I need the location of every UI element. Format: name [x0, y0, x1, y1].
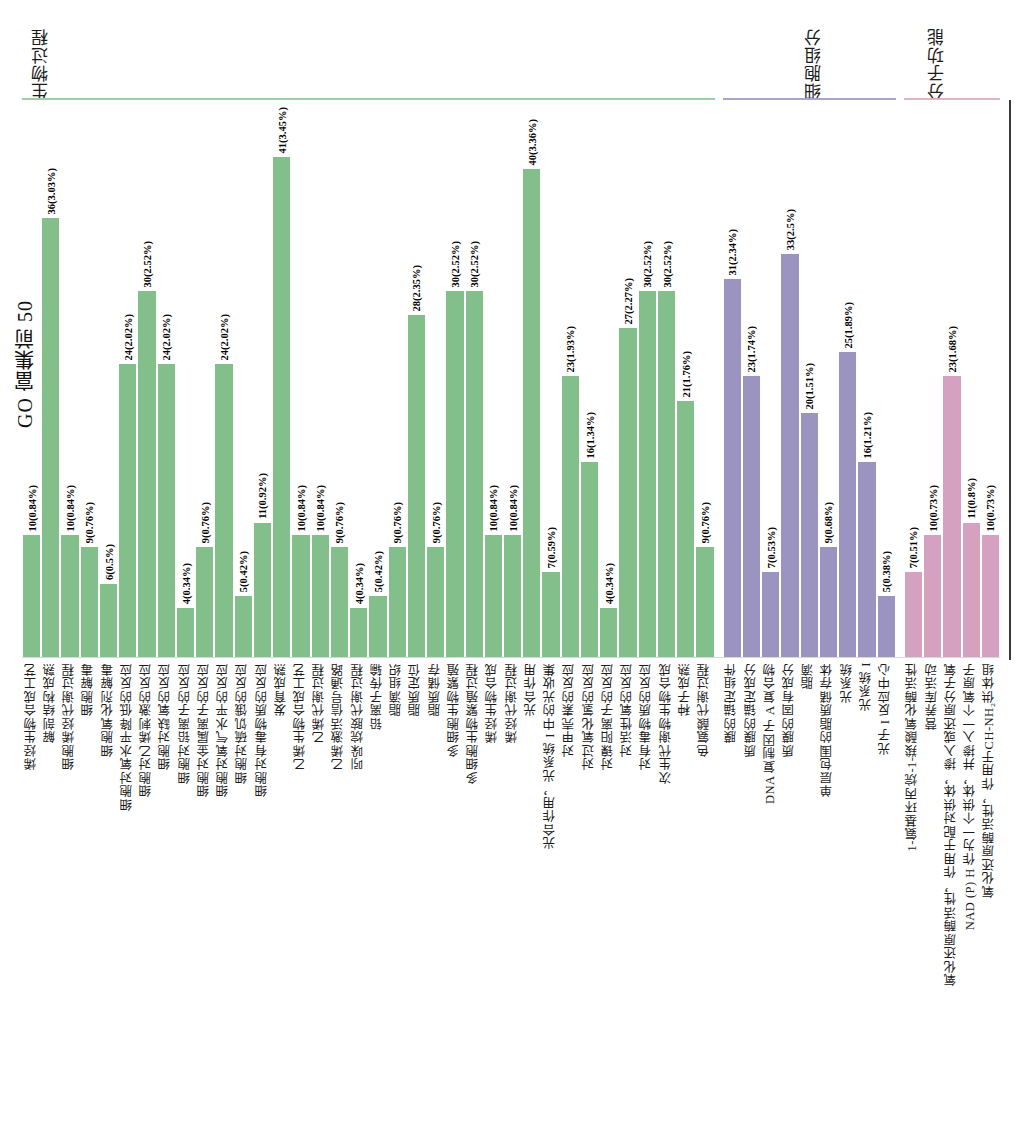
bar[interactable]: [465, 291, 484, 657]
bar-column[interactable]: 4(0.34%): [176, 108, 195, 657]
bar[interactable]: [657, 291, 676, 657]
bar[interactable]: [838, 352, 857, 657]
bar[interactable]: [426, 547, 445, 657]
bar-column[interactable]: 27(2.27%): [618, 108, 637, 657]
bar[interactable]: [819, 547, 838, 657]
bar[interactable]: [22, 535, 41, 657]
bar-column[interactable]: 30(2.52%): [137, 108, 156, 657]
bar[interactable]: [599, 608, 618, 657]
bar-column[interactable]: 4(0.34%): [599, 108, 618, 657]
bar[interactable]: [800, 413, 819, 657]
bar[interactable]: [80, 547, 99, 657]
bar[interactable]: [857, 462, 876, 657]
bar-column[interactable]: 5(0.42%): [368, 108, 387, 657]
bar-column[interactable]: 21(1.76%): [676, 108, 695, 657]
bar[interactable]: [742, 376, 761, 657]
bar[interactable]: [60, 535, 79, 657]
bar[interactable]: [41, 218, 60, 657]
bar-column[interactable]: 10(0.84%): [311, 108, 330, 657]
bar[interactable]: [388, 547, 407, 657]
bar[interactable]: [503, 535, 522, 657]
bar-column[interactable]: 30(2.52%): [465, 108, 484, 657]
bar-column[interactable]: 10(0.84%): [22, 108, 41, 657]
bar[interactable]: [618, 328, 637, 657]
bar[interactable]: [272, 157, 291, 657]
bar-column[interactable]: 16(1.21%): [857, 108, 876, 657]
bar-column[interactable]: 6(0.5%): [99, 108, 118, 657]
bar-column[interactable]: 4(0.34%): [349, 108, 368, 657]
bar-column[interactable]: 10(0.84%): [291, 108, 310, 657]
bar-column[interactable]: 16(1.34%): [580, 108, 599, 657]
bar-column[interactable]: 10(0.73%): [923, 108, 942, 657]
bar-column[interactable]: 30(2.52%): [638, 108, 657, 657]
bar[interactable]: [253, 523, 272, 657]
bar[interactable]: [561, 376, 580, 657]
bar[interactable]: [445, 291, 464, 657]
bar[interactable]: [176, 608, 195, 657]
bar-column[interactable]: 30(2.52%): [657, 108, 676, 657]
bar[interactable]: [695, 547, 714, 657]
bar[interactable]: [981, 535, 1000, 657]
bar[interactable]: [522, 169, 541, 657]
bar[interactable]: [580, 462, 599, 657]
bar[interactable]: [157, 364, 176, 657]
bar-column[interactable]: 28(2.35%): [407, 108, 426, 657]
bar-column[interactable]: 31(2.34%): [723, 108, 742, 657]
bar[interactable]: [942, 376, 961, 657]
bar-column[interactable]: 10(0.73%): [981, 108, 1000, 657]
bar-column[interactable]: 23(1.74%): [742, 108, 761, 657]
bar-column[interactable]: 5(0.42%): [234, 108, 253, 657]
bar-column[interactable]: 7(0.53%): [761, 108, 780, 657]
bar-column[interactable]: 24(2.02%): [157, 108, 176, 657]
bar-column[interactable]: 11(0.92%): [253, 108, 272, 657]
bar-column[interactable]: 10(0.84%): [503, 108, 522, 657]
bar[interactable]: [541, 572, 560, 657]
bar[interactable]: [234, 596, 253, 657]
bar-column[interactable]: 30(2.52%): [445, 108, 464, 657]
bar[interactable]: [923, 535, 942, 657]
bar[interactable]: [137, 291, 156, 657]
bar-column[interactable]: 40(3.36%): [522, 108, 541, 657]
bar-column[interactable]: 9(0.76%): [695, 108, 714, 657]
bar[interactable]: [291, 535, 310, 657]
bar-column[interactable]: 41(3.45%): [272, 108, 291, 657]
bar-column[interactable]: 33(2.5%): [780, 108, 799, 657]
bar-column[interactable]: 36(3.03%): [41, 108, 60, 657]
bar[interactable]: [761, 572, 780, 657]
bar[interactable]: [780, 254, 799, 657]
bar[interactable]: [214, 364, 233, 657]
bar-column[interactable]: 25(1.89%): [838, 108, 857, 657]
bar-column[interactable]: 24(2.02%): [118, 108, 137, 657]
bar[interactable]: [723, 279, 742, 657]
bar-column[interactable]: 9(0.76%): [330, 108, 349, 657]
bar[interactable]: [676, 401, 695, 657]
bar[interactable]: [118, 364, 137, 657]
bar[interactable]: [311, 535, 330, 657]
bar-column[interactable]: 23(1.68%): [942, 108, 961, 657]
bar-column[interactable]: 9(0.76%): [80, 108, 99, 657]
bar-column[interactable]: 7(0.59%): [541, 108, 560, 657]
bar[interactable]: [484, 535, 503, 657]
bar-column[interactable]: 9(0.76%): [388, 108, 407, 657]
bar-column[interactable]: 11(0.8%): [962, 108, 981, 657]
bar-column[interactable]: 5(0.38%): [877, 108, 896, 657]
bar-column[interactable]: 9(0.76%): [426, 108, 445, 657]
bar-column[interactable]: 24(2.02%): [214, 108, 233, 657]
bar-column[interactable]: 10(0.84%): [60, 108, 79, 657]
bar-column[interactable]: 23(1.93%): [561, 108, 580, 657]
bar-column[interactable]: 9(0.68%): [819, 108, 838, 657]
bar-column[interactable]: 10(0.84%): [484, 108, 503, 657]
bar[interactable]: [195, 547, 214, 657]
bar-column[interactable]: 9(0.76%): [195, 108, 214, 657]
bar[interactable]: [407, 315, 426, 657]
bar[interactable]: [962, 523, 981, 657]
bar[interactable]: [330, 547, 349, 657]
bar-column[interactable]: 20(1.51%): [800, 108, 819, 657]
bar[interactable]: [638, 291, 657, 657]
bar[interactable]: [904, 572, 923, 657]
bar[interactable]: [99, 584, 118, 657]
bar[interactable]: [877, 596, 896, 657]
bar[interactable]: [368, 596, 387, 657]
bar[interactable]: [349, 608, 368, 657]
bar-column[interactable]: 7(0.51%): [904, 108, 923, 657]
